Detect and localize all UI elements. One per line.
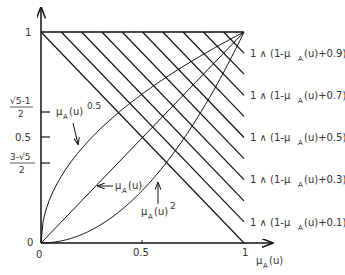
- label-sqrt: μ A (u) 0.5: [56, 101, 101, 121]
- svg-text:1 ∧ (1-μ: 1 ∧ (1-μ: [250, 90, 291, 101]
- label-linear: μ A (u): [115, 180, 142, 195]
- y-label-half: 0.5: [15, 132, 31, 143]
- y-label-one: 1: [25, 27, 31, 38]
- x-axis-title: μ A (u): [256, 255, 283, 270]
- svg-text:μ: μ: [141, 206, 148, 217]
- y-label-conj-den: 2: [19, 165, 25, 175]
- svg-text:1 ∧ (1-μ: 1 ∧ (1-μ: [250, 217, 291, 228]
- x-label-zero: 0: [36, 249, 42, 260]
- arrow-sqrt: [73, 123, 78, 144]
- right-label-05: 1 ∧ (1-μ A (u)+0.5): [250, 132, 345, 147]
- svg-text:(u)+0.7): (u)+0.7): [304, 90, 345, 101]
- y-label-golden-den: 2: [18, 109, 24, 119]
- chart: 1 √5-1 2 0.5 3-√5 2 0 0 0.5 1 μ A (u) μ …: [0, 0, 345, 275]
- x-label-half: 0.5: [133, 247, 149, 258]
- svg-text:μ: μ: [56, 106, 63, 117]
- svg-text:2: 2: [170, 201, 176, 211]
- svg-text:A: A: [298, 97, 303, 105]
- right-label-01: 1 ∧ (1-μ A (u)+0.1): [250, 217, 345, 232]
- svg-text:A: A: [148, 213, 153, 221]
- svg-text:A: A: [263, 262, 268, 270]
- svg-text:A: A: [298, 55, 303, 63]
- svg-text:A: A: [122, 187, 127, 195]
- right-label-07: 1 ∧ (1-μ A (u)+0.7): [250, 90, 345, 105]
- svg-text:(u)+0.5): (u)+0.5): [304, 132, 345, 143]
- svg-text:A: A: [298, 224, 303, 232]
- svg-text:1 ∧ (1-μ: 1 ∧ (1-μ: [250, 48, 291, 59]
- svg-text:A: A: [63, 113, 68, 121]
- y-label-conj-num: 3-√5: [10, 152, 30, 162]
- right-label-09: 1 ∧ (1-μ A (u)+0.9): [250, 48, 345, 63]
- svg-text:A: A: [298, 181, 303, 189]
- svg-text:(u)+0.1): (u)+0.1): [304, 217, 345, 228]
- svg-text:0.5: 0.5: [87, 101, 101, 111]
- svg-text:(u)+0.3): (u)+0.3): [304, 174, 345, 185]
- svg-text:(u): (u): [154, 206, 168, 217]
- svg-text:1 ∧ (1-μ: 1 ∧ (1-μ: [250, 132, 291, 143]
- svg-text:(u): (u): [69, 106, 83, 117]
- svg-text:(u)+0.9): (u)+0.9): [304, 48, 345, 59]
- y-label-zero: 0: [27, 237, 33, 248]
- svg-text:A: A: [298, 139, 303, 147]
- right-label-03: 1 ∧ (1-μ A (u)+0.3): [250, 174, 345, 189]
- svg-text:(u): (u): [269, 255, 283, 266]
- svg-text:μ: μ: [115, 180, 122, 191]
- x-label-one: 1: [242, 247, 248, 258]
- svg-text:μ: μ: [256, 255, 263, 266]
- y-label-golden-num: √5-1: [10, 96, 30, 106]
- svg-text:(u): (u): [128, 180, 142, 191]
- svg-text:1 ∧ (1-μ: 1 ∧ (1-μ: [250, 174, 291, 185]
